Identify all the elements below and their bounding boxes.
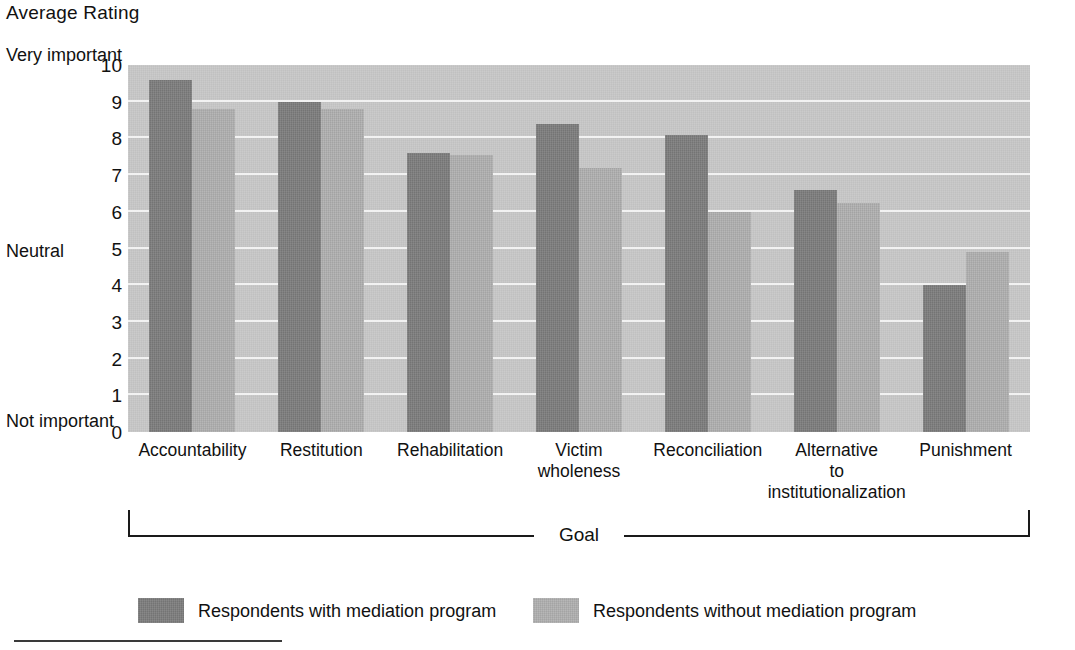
- bar-without-mediation-6: [966, 252, 1009, 432]
- bar-with-mediation-0: [149, 80, 192, 432]
- y-tick-1: 1: [111, 386, 122, 405]
- y-axis-tick-labels: 109876543210: [92, 0, 122, 650]
- y-tick-0: 0: [111, 423, 122, 442]
- bar-without-mediation-0: [192, 109, 235, 432]
- bar-with-mediation-1: [278, 102, 321, 432]
- y-tick-9: 9: [111, 92, 122, 111]
- bracket-line-right: [624, 535, 1030, 537]
- legend-label-with-mediation: Respondents with mediation program: [198, 600, 496, 622]
- y-tick-2: 2: [111, 349, 122, 368]
- legend-item-without-mediation: Respondents without mediation program: [533, 598, 916, 623]
- bar-with-mediation-3: [536, 124, 579, 432]
- y-tick-7: 7: [111, 166, 122, 185]
- y-tick-8: 8: [111, 129, 122, 148]
- bar-without-mediation-1: [321, 109, 364, 432]
- bracket-line-left: [128, 535, 534, 537]
- bar-without-mediation-4: [708, 212, 751, 432]
- y-axis-anchor-neutral: Neutral: [6, 240, 64, 262]
- bar-with-mediation-6: [923, 285, 966, 432]
- bar-with-mediation-4: [665, 135, 708, 432]
- plot-area: [128, 65, 1030, 432]
- legend-swatch-icon-dark: [138, 598, 184, 623]
- y-tick-5: 5: [111, 239, 122, 258]
- bar-without-mediation-2: [450, 155, 493, 432]
- x-axis-bracket: Goal: [128, 505, 1030, 545]
- x-axis-category-labels: AccountabilityRestitutionRehabilitationV…: [128, 440, 1030, 510]
- bar-with-mediation-5: [794, 190, 837, 432]
- x-axis-label: Goal: [534, 523, 624, 547]
- bar-with-mediation-2: [407, 153, 450, 432]
- y-tick-3: 3: [111, 312, 122, 331]
- bar-without-mediation-5: [837, 203, 880, 432]
- footer-divider: [14, 640, 282, 642]
- y-tick-6: 6: [111, 202, 122, 221]
- x-tick-label-6: Punishment: [871, 440, 1061, 461]
- chart-legend: Respondents with mediation program Respo…: [0, 598, 1075, 630]
- y-tick-4: 4: [111, 276, 122, 295]
- bracket-tick-left: [128, 510, 130, 537]
- bar-series-container: [128, 65, 1030, 432]
- bracket-tick-right: [1028, 510, 1030, 537]
- legend-item-with-mediation: Respondents with mediation program: [138, 598, 496, 623]
- bar-without-mediation-3: [579, 168, 622, 432]
- legend-label-without-mediation: Respondents without mediation program: [593, 600, 916, 622]
- y-tick-10: 10: [101, 56, 122, 75]
- legend-swatch-icon-light: [533, 598, 579, 623]
